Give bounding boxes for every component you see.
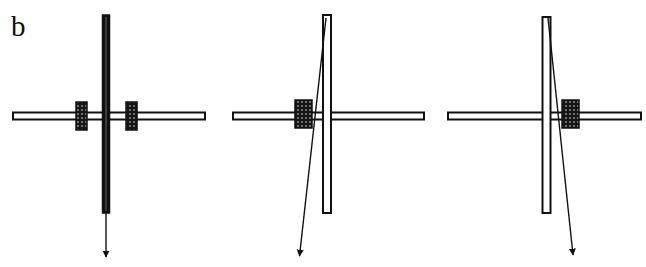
spring-box-right: [126, 102, 137, 130]
spring-box: [562, 100, 579, 128]
figure-canvas: [0, 0, 646, 267]
panel-right-shifted: [448, 17, 641, 255]
vertical-bar: [323, 15, 331, 213]
vertical-bar: [543, 17, 551, 213]
panel-left-shifted: [233, 15, 424, 256]
spring-box-left: [76, 102, 87, 130]
force-arrow: [548, 18, 573, 255]
spring-box: [295, 100, 312, 128]
panel-centered: [13, 15, 205, 257]
